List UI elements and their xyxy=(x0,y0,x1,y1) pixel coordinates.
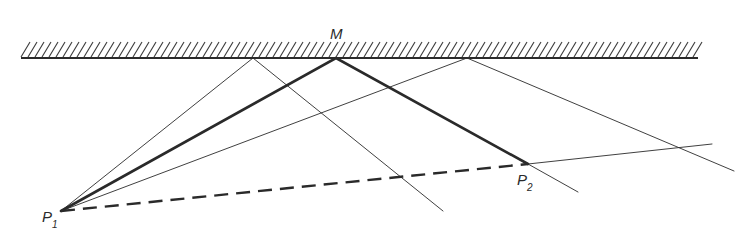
label-p1: P 1 xyxy=(42,208,58,230)
label-p2-main: P xyxy=(517,171,527,188)
rays xyxy=(61,58,734,211)
mirror-hatching xyxy=(21,42,702,57)
label-p1-main: P xyxy=(42,208,52,225)
main-reflection-path xyxy=(61,58,528,211)
reflected-ray-m-extension xyxy=(528,164,578,192)
reflection-diagram: M P 1 P 2 xyxy=(0,0,749,238)
reflected-ray-b xyxy=(467,58,734,171)
label-p1-subscript: 1 xyxy=(52,219,58,230)
incident-ray-b xyxy=(61,58,467,211)
label-m: M xyxy=(330,25,343,42)
incident-ray-a xyxy=(61,58,253,211)
label-p2: P 2 xyxy=(517,171,533,193)
mirror xyxy=(21,42,702,58)
label-p2-subscript: 2 xyxy=(526,182,533,193)
p2-extension-line xyxy=(528,144,712,164)
